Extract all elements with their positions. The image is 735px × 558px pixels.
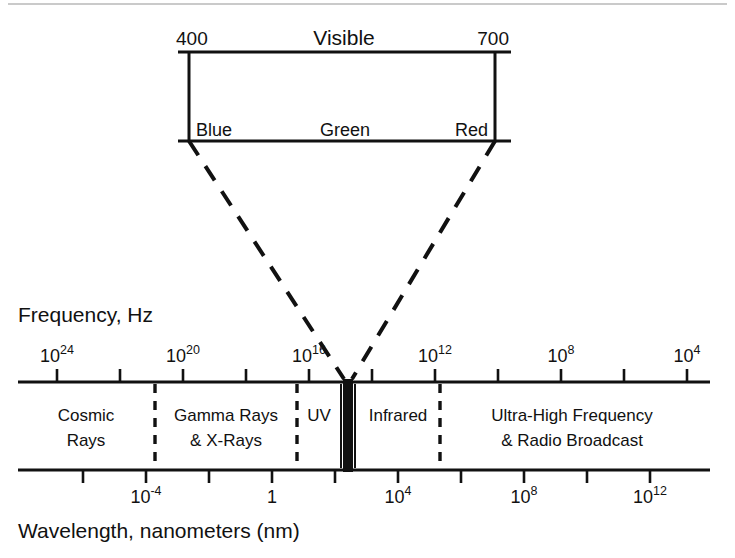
band-label-uhf-radio-line2: & Radio Broadcast <box>501 431 643 450</box>
frequency-tick-label: 1016 <box>292 343 326 366</box>
band-label-cosmic-rays: Cosmic <box>58 406 115 425</box>
frequency-tick-label: 108 <box>548 343 575 366</box>
visible-panel-title: Visible <box>313 26 374 49</box>
visible-color-red-label: Red <box>455 120 488 140</box>
visible-color-green-label: Green <box>320 120 370 140</box>
frequency-tick-label: 104 <box>674 343 701 366</box>
wavelength-tick-label: 10-4 <box>130 484 161 507</box>
frequency-axis-title: Frequency, Hz <box>18 303 153 326</box>
wavelength-axis: 10-4 1 104 108 1012 Wavelength, nanomete… <box>18 470 710 542</box>
band-label-uv: UV <box>307 406 331 425</box>
visible-left-wavelength-label: 400 <box>176 28 208 49</box>
frequency-tick-label: 1012 <box>418 343 452 366</box>
wavelength-axis-ticks <box>83 470 650 483</box>
wavelength-axis-title: Wavelength, nanometers (nm) <box>18 519 300 542</box>
band-label-cosmic-rays-line2: Rays <box>67 431 106 450</box>
figure-canvas: 400 Visible 700 Blue Green Red Frequency… <box>0 0 735 558</box>
frequency-tick-label: 1020 <box>166 343 200 366</box>
spectrum-band-box: Cosmic Rays Gamma Rays & X-Rays UV Infra… <box>58 379 654 472</box>
band-label-infrared: Infrared <box>369 406 428 425</box>
visible-right-wavelength-label: 700 <box>477 28 509 49</box>
frequency-axis: Frequency, Hz 1024 1020 1 <box>18 303 710 382</box>
visible-light-bar <box>343 379 353 472</box>
wavelength-tick-label: 104 <box>385 484 412 507</box>
frequency-tick-label: 1024 <box>40 343 74 366</box>
electromagnetic-spectrum-figure: 400 Visible 700 Blue Green Red Frequency… <box>0 0 735 558</box>
wavelength-tick-label: 108 <box>511 484 538 507</box>
wavelength-axis-tick-labels: 10-4 1 104 108 1012 <box>130 484 667 507</box>
wavelength-tick-label: 1 <box>267 487 277 507</box>
visible-color-blue-label: Blue <box>196 120 232 140</box>
wavelength-tick-label: 1012 <box>633 484 667 507</box>
visible-panel: 400 Visible 700 Blue Green Red <box>176 26 511 141</box>
band-label-gamma-xrays-line2: & X-Rays <box>190 431 262 450</box>
convergence-line-right <box>352 141 495 379</box>
band-label-uhf-radio: Ultra-High Frequency <box>491 406 653 425</box>
band-label-gamma-xrays: Gamma Rays <box>174 406 278 425</box>
frequency-axis-ticks <box>57 369 687 382</box>
